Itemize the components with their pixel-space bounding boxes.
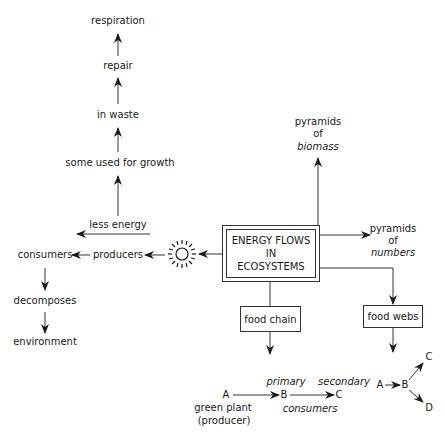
chain-b: B [281,389,288,401]
central-node: ENERGY FLOWS IN ECOSYSTEMS [222,225,320,282]
chain-primary: primary [266,376,305,388]
web-a: A [377,379,384,391]
food-chain-box: food chain [240,306,301,332]
environment-label: environment [13,336,77,348]
chain-c: C [336,389,343,401]
chain-a: A [223,389,230,401]
web-c: C [426,351,433,363]
repair-label: repair [103,60,132,72]
central-line-3: ECOSYSTEMS [237,260,304,273]
connector-lines [0,0,445,438]
central-line-1: ENERGY FLOWS [232,234,311,247]
in-waste-label: in waste [97,109,139,121]
respiration-label: respiration [91,15,145,27]
consumers-label: consumers [18,249,73,261]
sun-icon [168,240,196,268]
web-d: D [425,402,433,414]
food-webs-box: food webs [363,305,423,328]
pyramids-numbers-line1: pyramids [370,223,417,235]
chain-secondary: secondary [318,376,370,388]
pyramids-numbers-line2: of [388,235,398,247]
chain-producer: (producer) [198,415,251,427]
pyramids-numbers-line3: numbers [371,247,415,259]
growth-label: some used for growth [65,157,174,169]
web-b: B [402,379,409,391]
chain-consumers: consumers [283,403,338,415]
chain-green-plant: green plant [194,402,252,414]
pyramids-biomass-line3: biomass [297,141,339,153]
producers-label: producers [93,249,143,261]
pyramids-biomass-line1: pyramids [295,116,342,128]
decomposes-label: decomposes [14,295,77,307]
central-line-2: IN [266,247,276,260]
pyramids-biomass-line2: of [313,128,323,140]
less-energy-label: less energy [89,219,146,231]
